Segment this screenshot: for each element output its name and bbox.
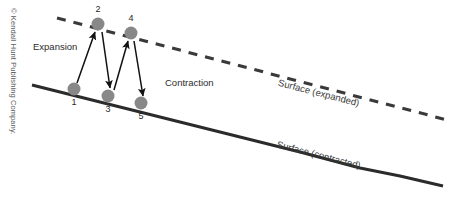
arrow-4-to-5 [134,41,143,96]
marker-label-1: 1 [71,97,76,107]
surface-expanded-label: Surface (expanded) [277,77,361,109]
marker-label-2: 2 [95,4,100,14]
marker-label-4: 4 [128,13,133,23]
marker-point-4 [125,27,138,40]
marker-label-3: 3 [105,104,110,114]
arrow-1-to-2 [77,32,95,83]
surface-contracted-label: Surface (contracted) [276,139,362,171]
expansion-label: Expansion [33,41,77,52]
arrow-2-to-3 [102,32,110,88]
marker-point-3 [102,90,115,103]
surface-contracted-line [32,85,443,186]
contraction-label: Contraction [165,77,214,88]
arrow-3-to-4 [114,41,128,90]
marker-point-5 [135,97,148,110]
marker-label-5: 5 [138,111,143,121]
marker-point-2 [92,18,105,31]
diagram-canvas: 1 2 3 4 5 Expansion Contraction Surface … [0,0,456,203]
diagram-figure: 1 2 3 4 5 Expansion Contraction Surface … [0,0,456,203]
copyright-credit: © Kendall Hunt Publishing Company. [9,8,18,134]
marker-point-1 [68,83,81,96]
